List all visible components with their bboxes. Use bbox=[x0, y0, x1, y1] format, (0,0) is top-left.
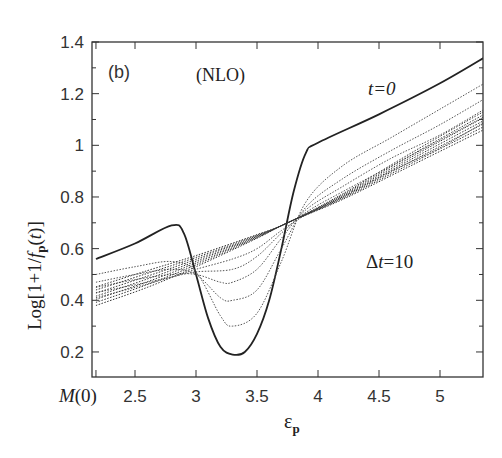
y-tick-label: 1.2 bbox=[60, 85, 84, 104]
x-axis-label: εp bbox=[284, 410, 300, 436]
y-tick-label: 1 bbox=[75, 136, 84, 155]
y-tick-label: 0.2 bbox=[60, 343, 84, 362]
annotation-dt: Δt=10 bbox=[366, 251, 413, 272]
series-line-bundle bbox=[96, 118, 489, 296]
y-tick-label: 0.4 bbox=[60, 291, 84, 310]
y-tick-label: 0.8 bbox=[60, 188, 84, 207]
x-tick-label: 5 bbox=[435, 387, 444, 406]
series-line bbox=[96, 81, 489, 326]
panel-label: (b) bbox=[108, 62, 130, 82]
annotation-t0: t=0 bbox=[368, 78, 396, 99]
chart: 0.20.40.60.811.21.4M(0)2.533.544.55 (b) … bbox=[0, 0, 502, 458]
x-tick-label: 2.5 bbox=[123, 387, 147, 406]
y-axis-label: Log[1+1/fp(t)] bbox=[24, 221, 48, 330]
series-line-bundle bbox=[96, 127, 489, 305]
series-line bbox=[96, 119, 489, 297]
y-tick-label: 1.4 bbox=[60, 33, 84, 52]
series-line-bundle bbox=[96, 121, 489, 299]
x-tick-label: 4.5 bbox=[367, 387, 391, 406]
plot-lines bbox=[96, 55, 489, 355]
chart-title: (NLO) bbox=[196, 65, 245, 86]
x-tick-label: M(0) bbox=[58, 385, 97, 407]
x-tick-label: 3.5 bbox=[245, 387, 269, 406]
y-tick-label: 0.6 bbox=[60, 240, 84, 259]
series-line bbox=[96, 55, 489, 355]
series-line-bundle bbox=[96, 124, 489, 302]
x-tick-label: 3 bbox=[191, 387, 200, 406]
series-line bbox=[96, 114, 489, 292]
axis-ticks: 0.20.40.60.811.21.4M(0)2.533.544.55 bbox=[58, 33, 483, 407]
x-tick-label: 4 bbox=[313, 387, 322, 406]
